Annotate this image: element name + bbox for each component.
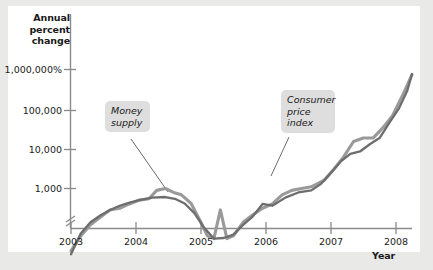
y-axis-title: Annual percent change bbox=[14, 12, 70, 47]
x-tick-label-2005: 2005 bbox=[179, 236, 223, 247]
y-tick-label-1000000: 1,000,000% bbox=[0, 64, 62, 75]
y-tick-label-100000: 100,000 bbox=[0, 105, 62, 116]
x-axis-title: Year bbox=[372, 250, 418, 262]
x-tick-label-2004: 2004 bbox=[114, 236, 158, 247]
consumer-price-index-leader-line bbox=[271, 137, 289, 176]
consumer-price-index-callout: Consumer price index bbox=[281, 90, 335, 133]
x-tick-label-2007: 2007 bbox=[309, 236, 353, 247]
callout-leader-lines bbox=[131, 137, 289, 192]
money-supply-callout: Money supply bbox=[105, 101, 150, 132]
y-tick-label-10000: 10,000 bbox=[0, 144, 62, 155]
x-tick-label-2003: 2003 bbox=[49, 236, 93, 247]
x-tick-label-2008: 2008 bbox=[374, 236, 418, 247]
y-tick-label-1000: 1,000 bbox=[0, 183, 62, 194]
money-supply-leader-line bbox=[131, 139, 168, 192]
x-tick-label-2006: 2006 bbox=[244, 236, 288, 247]
figure-container: Annual percent change Year 1,000,000% 10… bbox=[0, 0, 433, 270]
